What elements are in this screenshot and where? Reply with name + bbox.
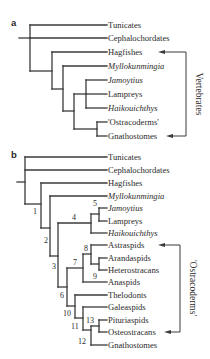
panel-label: b bbox=[11, 149, 17, 160]
phylogeny-svg: aTunicatesCephalochordatesHagfishesMyllo… bbox=[0, 0, 210, 359]
taxon-label: Myllokunmingia bbox=[107, 61, 164, 71]
arrowhead-icon bbox=[158, 243, 165, 247]
taxon-label: Cephalochordates bbox=[108, 33, 170, 43]
taxon-label: Jamoytius bbox=[108, 75, 144, 85]
node-number: 2 bbox=[44, 236, 48, 245]
taxon-label: Astraspids bbox=[108, 240, 145, 250]
taxon-label: Hagfishes bbox=[108, 178, 143, 188]
taxon-label: Jamoytius bbox=[108, 203, 144, 213]
taxon-label: Tunicates bbox=[108, 152, 142, 162]
taxon-label: Heterostracans bbox=[108, 265, 160, 275]
taxon-label: Tunicates bbox=[108, 20, 142, 30]
taxon-label: Lampreys bbox=[108, 89, 143, 99]
arrowhead-icon bbox=[164, 330, 171, 334]
taxon-label: Galeaspids bbox=[108, 302, 146, 312]
taxon-label: Thelodonts bbox=[108, 290, 147, 300]
node-number: 5 bbox=[93, 199, 97, 208]
node-number: 8 bbox=[84, 244, 88, 253]
bracket-line bbox=[164, 245, 180, 332]
panel-b: bTunicatesCephalochordatesHagfishesMyllo… bbox=[11, 149, 198, 350]
taxon-label: 'Ostracoderms' bbox=[108, 117, 159, 127]
node-number: 7 bbox=[73, 258, 77, 267]
taxon-label: Myllokunmingia bbox=[107, 191, 164, 201]
taxon-label: Hagfishes bbox=[108, 47, 143, 57]
phylogenetic-figure: aTunicatesCephalochordatesHagfishesMyllo… bbox=[0, 0, 210, 359]
node-number: 10 bbox=[63, 309, 71, 318]
clade-bracket: Vertebrates bbox=[158, 50, 204, 138]
node-number: 12 bbox=[78, 337, 86, 346]
taxon-label: Cephalochordates bbox=[108, 165, 170, 175]
taxon-label: Haikouichthys bbox=[107, 228, 158, 238]
arrowhead-icon bbox=[158, 50, 165, 54]
taxon-label: Pituriaspids bbox=[108, 315, 149, 325]
node-number: 13 bbox=[86, 316, 94, 325]
panel-label: a bbox=[11, 17, 17, 28]
taxon-label: Lampreys bbox=[108, 216, 143, 226]
clade-bracket: 'Ostracoderms' bbox=[158, 243, 198, 334]
arrowhead-icon bbox=[166, 134, 173, 138]
node-number: 1 bbox=[33, 207, 37, 216]
bracket-label: 'Ostracoderms' bbox=[188, 260, 198, 316]
taxon-label: Arandaspids bbox=[108, 253, 152, 263]
bracket-line bbox=[164, 52, 186, 136]
taxon-label: Gnathostomes bbox=[108, 131, 158, 141]
node-number: 9 bbox=[93, 272, 97, 281]
taxon-label: Haikouichthys bbox=[107, 103, 158, 113]
node-number: 3 bbox=[52, 262, 56, 271]
bracket-label: Vertebrates bbox=[194, 73, 204, 116]
node-number: 6 bbox=[60, 291, 64, 300]
taxon-label: Gnathostomes bbox=[108, 340, 158, 350]
taxon-label: Osteostracans bbox=[108, 327, 156, 337]
node-number: 11 bbox=[71, 322, 79, 331]
panel-a: aTunicatesCephalochordatesHagfishesMyllo… bbox=[11, 17, 204, 141]
taxon-label: Anaspids bbox=[108, 277, 141, 287]
node-number: 4 bbox=[72, 213, 76, 222]
branches bbox=[19, 25, 107, 136]
